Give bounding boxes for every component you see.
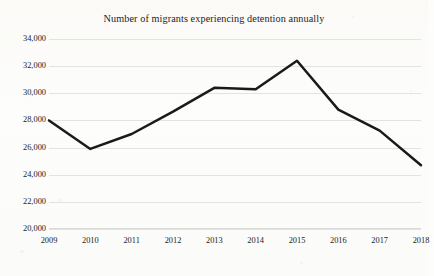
y-axis-tick-label: 24,000 — [2, 170, 46, 179]
x-axis-tick-label: 2010 — [70, 236, 110, 245]
plot-area — [49, 39, 421, 229]
y-axis-tick-label: 34,000 — [2, 34, 46, 43]
paper-texture-speck — [352, 16, 354, 18]
x-axis-tick-label: 2015 — [277, 236, 317, 245]
x-axis-tick-label: 2009 — [29, 236, 69, 245]
paper-texture-speck — [20, 250, 24, 253]
y-axis-tick-label: 28,000 — [2, 115, 46, 124]
y-axis-tick-label: 30,000 — [2, 88, 46, 97]
paper-texture-speck — [410, 90, 412, 92]
gridline — [49, 229, 421, 230]
y-axis-tick-label: 32,000 — [2, 61, 46, 70]
x-axis-tick-label: 2017 — [360, 236, 400, 245]
line-series-path — [49, 61, 421, 165]
paper-texture-speck — [300, 262, 303, 264]
y-axis-tick-label: 20,000 — [2, 224, 46, 233]
x-axis-tick-label: 2012 — [153, 236, 193, 245]
x-axis-tick-label: 2011 — [112, 236, 152, 245]
y-axis-tick-label: 22,000 — [2, 197, 46, 206]
x-axis-tick-label: 2018 — [401, 236, 434, 245]
paper-texture-speck — [58, 198, 61, 202]
chart-title: Number of migrants experiencing detentio… — [0, 13, 428, 24]
x-axis-tick-label: 2013 — [194, 236, 234, 245]
line-series-svg — [49, 39, 421, 229]
x-axis-tick-label: 2014 — [236, 236, 276, 245]
y-axis-tick-label: 26,000 — [2, 143, 46, 152]
x-axis-tick-label: 2016 — [318, 236, 358, 245]
